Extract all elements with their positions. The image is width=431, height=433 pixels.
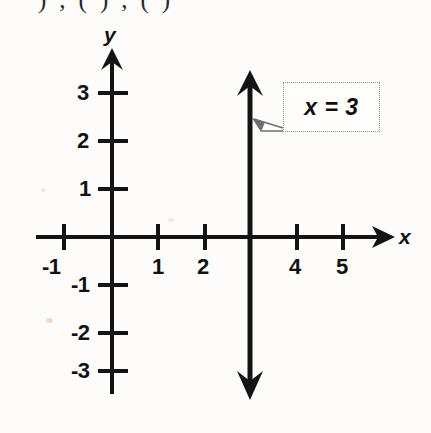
x-tick-label--1: -1 (42, 256, 61, 278)
graph-figure: ),(),() (0, 0, 431, 433)
y-axis-group (101, 48, 123, 394)
equation-callout-box: x = 3 (283, 82, 380, 132)
x-tick-label-4: 4 (289, 256, 301, 278)
x-tick-label-5: 5 (336, 256, 348, 278)
y-axis-label: y (104, 24, 116, 45)
graph-canvas (0, 0, 431, 433)
y-tick-label-2: 2 (77, 130, 89, 152)
y-tick-label-1: 1 (79, 178, 91, 200)
x-tick-label-2: 2 (197, 256, 209, 278)
y-tick-label--2: -2 (71, 322, 90, 344)
y-tick-label--1: -1 (71, 274, 90, 296)
y-tick-label-3: 3 (77, 82, 89, 104)
x-axis-label: x (399, 226, 411, 247)
y-tick-label--3: -3 (71, 360, 90, 382)
callout-leader-line (252, 118, 283, 132)
x-tick-label-1: 1 (152, 256, 164, 278)
leader-arrow-icon (252, 118, 265, 132)
equation-callout-label: x = 3 (284, 83, 379, 131)
